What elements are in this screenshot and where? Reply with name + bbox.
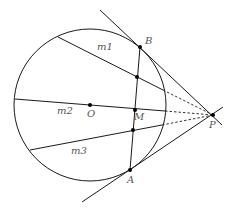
m3-ext [162, 115, 213, 125]
label-B: B [144, 35, 152, 46]
m2-ext [165, 111, 213, 115]
point-m3_AB [131, 128, 135, 132]
label-m2: m2 [57, 105, 73, 116]
point-m1_AB [135, 75, 139, 79]
tangent-PA [82, 107, 223, 202]
label-m1: m1 [97, 41, 113, 52]
label-O: O [87, 108, 95, 119]
label-A: A [126, 174, 134, 185]
secant-lines [15, 37, 165, 150]
dashed-extensions [162, 90, 213, 125]
label-M: M [133, 111, 145, 122]
point-P [211, 113, 215, 117]
label-P: P [208, 119, 216, 130]
point-B [138, 45, 142, 49]
line-m3 [30, 125, 162, 150]
label-m3: m3 [71, 145, 87, 156]
point-A [128, 168, 132, 172]
points [88, 45, 215, 172]
point-O [88, 103, 92, 107]
geometry-diagram: m1m2m3BAPMO [0, 0, 238, 212]
